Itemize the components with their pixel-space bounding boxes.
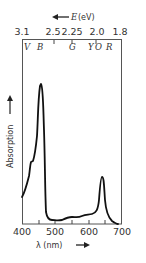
band-green: G bbox=[69, 42, 76, 52]
color-band-labels: V B G Y O R bbox=[24, 42, 113, 52]
bottom-ticks bbox=[39, 220, 105, 224]
absorption-chart: E (eV) 3.1 2.5 2.25 2.0 1.8 V B G Y O R … bbox=[0, 0, 146, 263]
y-axis-title: Absorption bbox=[6, 95, 15, 168]
top-tick-1.8: 1.8 bbox=[112, 26, 127, 37]
top-tick-2.0: 2.0 bbox=[89, 26, 104, 37]
energy-unit: (eV) bbox=[78, 13, 95, 22]
top-tick-3.1: 3.1 bbox=[14, 26, 29, 37]
band-violet: V bbox=[24, 42, 31, 52]
x-tick-500: 500 bbox=[46, 226, 64, 237]
x-tick-600: 600 bbox=[80, 226, 98, 237]
x-axis-title: λ (nm) bbox=[36, 241, 90, 250]
bottom-tick-labels: 400 500 600 700 bbox=[13, 226, 131, 237]
x-axis-label: λ (nm) bbox=[36, 241, 62, 250]
band-yellow: Y bbox=[88, 42, 95, 52]
absorption-curve bbox=[22, 84, 118, 224]
y-axis-label: Absorption bbox=[6, 125, 15, 168]
top-tick-2.25: 2.25 bbox=[61, 26, 82, 37]
band-orange: O bbox=[95, 42, 102, 52]
band-blue: B bbox=[36, 42, 43, 52]
band-red: R bbox=[105, 42, 113, 52]
x-tick-700: 700 bbox=[113, 226, 131, 237]
energy-label: E bbox=[70, 12, 78, 22]
top-axis-title: E (eV) bbox=[52, 12, 95, 22]
x-tick-400: 400 bbox=[13, 226, 31, 237]
top-tick-labels: 3.1 2.5 2.25 2.0 1.8 bbox=[14, 26, 127, 37]
top-tick-2.5: 2.5 bbox=[45, 26, 60, 37]
